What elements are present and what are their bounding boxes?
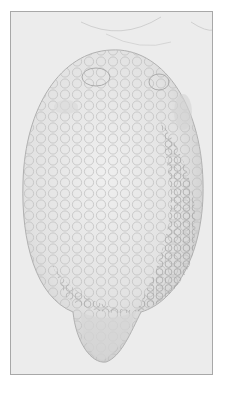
image-frame <box>10 11 213 375</box>
specimen-illustration <box>11 12 213 375</box>
